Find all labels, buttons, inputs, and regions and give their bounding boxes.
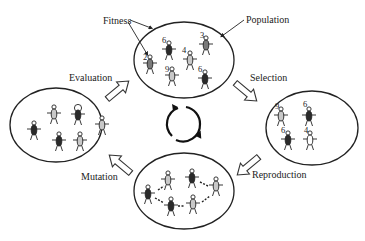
figure-head	[52, 105, 56, 109]
figure-body	[189, 173, 195, 183]
selection-label: Selection	[250, 72, 287, 83]
fitness-value: 6	[281, 125, 285, 135]
figure-head	[32, 121, 36, 125]
figure-head	[170, 67, 174, 71]
population-leader-line	[222, 20, 244, 36]
figure-body	[77, 136, 83, 146]
figure-head	[146, 185, 150, 189]
figure-body	[213, 181, 219, 191]
figure-head	[190, 169, 194, 173]
figure-head	[188, 51, 192, 55]
reproduction-label: Reproduction	[252, 169, 306, 180]
figure-head	[78, 132, 82, 136]
figure-body	[306, 111, 312, 121]
figure-head	[214, 177, 218, 181]
figure-head	[204, 36, 208, 40]
figure-head	[286, 131, 290, 135]
figure-head	[279, 107, 283, 111]
fitness-value: 2	[143, 52, 147, 62]
figure-body	[285, 135, 291, 145]
figure-body	[99, 120, 105, 130]
mutation-label: Mutation	[81, 171, 118, 182]
figure-body	[166, 45, 172, 55]
fitness-label: Fitness	[103, 15, 131, 26]
figure-body	[168, 201, 174, 211]
fitness-value: 9	[275, 101, 279, 111]
figure-head	[167, 41, 171, 45]
fitness-value: 3	[200, 30, 204, 40]
figure-body	[75, 110, 81, 120]
figure-body	[145, 189, 151, 199]
selection-ellipse	[266, 91, 358, 165]
fitness-value: 6	[198, 64, 202, 74]
figure-body	[165, 175, 171, 185]
fitness-value: 9	[165, 64, 169, 74]
figure-head	[169, 197, 173, 201]
figure-body	[56, 136, 62, 146]
figure-body	[202, 74, 208, 84]
figure-body	[203, 40, 209, 50]
figure-body	[187, 55, 193, 65]
figure-body	[31, 125, 37, 135]
evaluation-label: Evaluation	[69, 72, 112, 83]
figure-body	[51, 109, 57, 119]
figure-head	[191, 195, 195, 199]
fitness-value: 6	[303, 99, 307, 109]
ga-cycle-diagram: Fitness Population Evaluation Selection …	[0, 0, 365, 241]
figure-head	[100, 116, 104, 120]
population-label: Population	[246, 14, 289, 25]
figure-head	[57, 132, 61, 136]
figure-head	[308, 131, 312, 135]
fitness-value: 6	[162, 35, 166, 45]
fitness-leader-line-1	[130, 20, 151, 28]
cycle-icon	[167, 104, 203, 142]
figure-head	[203, 70, 207, 74]
figure-body	[190, 199, 196, 209]
figure-head	[307, 107, 311, 111]
figure-head	[148, 55, 152, 59]
figure-body	[169, 71, 175, 81]
figure-head	[166, 171, 170, 175]
figure-body	[278, 111, 284, 121]
figure-body	[147, 59, 153, 69]
figure-body	[307, 135, 313, 145]
